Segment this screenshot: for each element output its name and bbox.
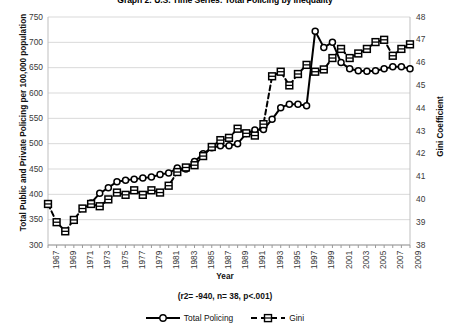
data-point-gini [251, 132, 258, 139]
data-point-gini [303, 61, 310, 68]
data-point-gini [122, 191, 129, 198]
data-series-layer [45, 28, 414, 235]
data-point-gini [45, 201, 52, 208]
x-axis-tick-label: 1985 [207, 251, 216, 269]
data-point-gini [157, 189, 164, 196]
y-axis-right-tick-label: 40 [416, 194, 442, 204]
data-point-total-policing [157, 172, 163, 178]
y-axis-left-tick-label: 650 [17, 62, 43, 72]
data-point-total-policing [347, 66, 353, 72]
x-axis-tick-label: 2009 [414, 251, 423, 269]
data-point-gini [355, 50, 362, 57]
data-point-gini [329, 55, 336, 62]
data-point-total-policing [373, 68, 379, 74]
data-point-total-policing [105, 185, 111, 191]
data-point-gini [139, 191, 146, 198]
data-point-gini [208, 144, 215, 151]
y-axis-left-tick-label: 750 [17, 12, 43, 22]
data-point-total-policing [329, 39, 335, 45]
x-axis-tick-label: 2003 [362, 251, 371, 269]
legend-marker-total-policing [146, 313, 180, 323]
legend-label-gini: Gini [289, 313, 304, 323]
chart-container: Graph 2: U.S. Time Series: Total Policin… [0, 0, 450, 330]
legend-item-gini: Gini [251, 313, 304, 323]
legend-label-total-policing: Total Policing [184, 313, 233, 323]
data-point-gini [320, 66, 327, 73]
data-point-total-policing [338, 60, 344, 66]
data-point-gini [389, 52, 396, 59]
y-axis-left-tick-label: 450 [17, 164, 43, 174]
y-axis-left-tick-label: 400 [17, 189, 43, 199]
data-point-total-policing [286, 101, 292, 107]
y-axis-right-tick-label: 45 [416, 80, 442, 90]
x-axis-tick-label: 2001 [345, 251, 354, 269]
data-point-total-policing [381, 66, 387, 72]
data-point-gini [286, 82, 293, 89]
x-axis-tick-label: 1999 [327, 251, 336, 269]
y-axis-right-tick-label: 44 [416, 103, 442, 113]
data-point-gini [62, 228, 69, 235]
data-point-total-policing [269, 116, 275, 122]
data-point-gini [398, 46, 405, 53]
x-axis-tick-label: 2005 [379, 251, 388, 269]
data-point-gini [312, 68, 319, 75]
data-point-gini [346, 55, 353, 62]
legend-marker-gini [251, 313, 285, 323]
data-point-gini [407, 41, 414, 48]
data-point-gini [96, 203, 103, 210]
data-point-gini [381, 36, 388, 43]
data-point-gini [53, 219, 60, 226]
data-point-gini [114, 189, 121, 196]
data-point-total-policing [235, 141, 241, 147]
data-point-total-policing [295, 101, 301, 107]
data-point-gini [277, 68, 284, 75]
data-point-total-policing [114, 179, 120, 185]
data-point-total-policing [131, 176, 137, 182]
data-point-total-policing [364, 68, 370, 74]
data-point-total-policing [312, 28, 318, 34]
chart-annotation: (r2= -940, n= 38, p<.001) [0, 291, 450, 301]
data-point-total-policing [97, 190, 103, 196]
data-point-gini [70, 217, 77, 224]
x-axis-tick-label: 1967 [52, 251, 61, 269]
x-axis-tick-label: 1983 [190, 251, 199, 269]
data-point-gini [217, 137, 224, 144]
x-axis-tick-label: 1987 [224, 251, 233, 269]
data-point-total-policing [166, 170, 172, 176]
data-point-total-policing [321, 44, 327, 50]
y-axis-left-tick-label: 300 [17, 240, 43, 250]
plot-area [0, 0, 450, 330]
y-axis-left-tick-label: 350 [17, 214, 43, 224]
y-axis-right-tick-label: 43 [416, 126, 442, 136]
x-axis-tick-label: 1997 [310, 251, 319, 269]
x-axis-tick-label: 2007 [396, 251, 405, 269]
data-point-gini [226, 134, 233, 141]
y-axis-right-tick-label: 42 [416, 148, 442, 158]
x-axis-tick-label: 1981 [172, 251, 181, 269]
data-point-total-policing [355, 68, 361, 74]
data-point-gini [88, 201, 95, 208]
y-axis-left-tick-label: 550 [17, 113, 43, 123]
data-point-gini [295, 71, 302, 78]
data-point-gini [131, 187, 138, 194]
x-axis-tick-label: 1971 [86, 251, 95, 269]
data-point-gini [183, 164, 190, 171]
data-point-total-policing [123, 177, 129, 183]
legend-item-total-policing: Total Policing [146, 313, 233, 323]
y-axis-right-tick-label: 39 [416, 217, 442, 227]
x-axis-tick-label: 1969 [69, 251, 78, 269]
data-point-gini [191, 162, 198, 169]
data-point-total-policing [140, 175, 146, 181]
data-point-gini [105, 196, 112, 203]
data-point-gini [243, 130, 250, 137]
y-axis-left-tick-label: 500 [17, 138, 43, 148]
x-axis-tick-label: 1973 [103, 251, 112, 269]
chart-legend: Total Policing Gini [0, 313, 450, 323]
y-axis-right-tick-label: 41 [416, 171, 442, 181]
y-axis-right-tick-label: 38 [416, 240, 442, 250]
data-point-total-policing [278, 105, 284, 111]
data-point-gini [364, 46, 371, 53]
y-axis-left-tick-label: 600 [17, 88, 43, 98]
y-axis-right-tick-label: 47 [416, 34, 442, 44]
data-point-gini [200, 153, 207, 160]
